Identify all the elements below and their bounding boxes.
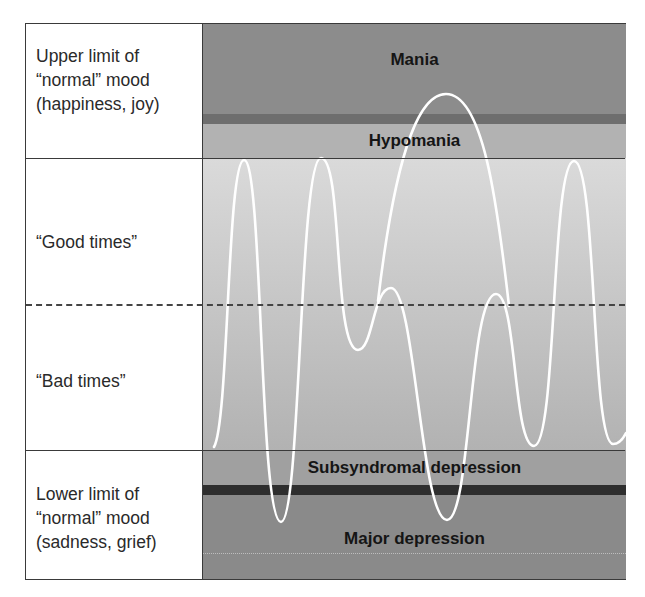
hypomania-label: Hypomania	[203, 131, 626, 151]
major-depression-label: Major depression	[203, 529, 626, 549]
lower-limit-line-2: “normal” mood	[36, 506, 157, 530]
midline-dashed	[26, 304, 625, 306]
label-column: Upper limit of “normal” mood (happiness,…	[26, 24, 203, 579]
mood-spectrum-diagram: Upper limit of “normal” mood (happiness,…	[25, 23, 626, 580]
mood-chart-area: Mania Hypomania Subsyndromal depression …	[203, 24, 626, 579]
upper-limit-line-1: Upper limit of	[36, 44, 160, 68]
upper-limit-line-3: (happiness, joy)	[36, 92, 160, 116]
lower-divider	[26, 450, 625, 451]
upper-limit-line-2: “normal” mood	[36, 68, 160, 92]
upper-limit-label: Upper limit of “normal” mood (happiness,…	[36, 44, 160, 116]
mood-curve	[203, 24, 626, 579]
mania-label: Mania	[203, 50, 626, 70]
good-times-label: “Good times”	[36, 230, 137, 254]
lower-limit-line-1: Lower limit of	[36, 482, 157, 506]
subsyndromal-label: Subsyndromal depression	[203, 458, 626, 478]
lower-limit-label: Lower limit of “normal” mood (sadness, g…	[36, 482, 157, 554]
lower-limit-line-3: (sadness, grief)	[36, 530, 157, 554]
upper-divider	[26, 158, 625, 159]
bad-times-label: “Bad times”	[36, 369, 125, 393]
